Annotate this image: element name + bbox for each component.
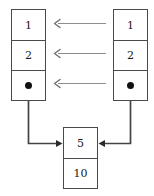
right-cell-1: 1: [114, 10, 147, 40]
left-pointer-dot-icon: [25, 82, 32, 89]
left-cell-3-pointer: [12, 70, 45, 100]
ref-arrow-row-2: [55, 50, 107, 58]
right-cell-2-value: 2: [127, 50, 134, 61]
shared-cell-2: 10: [64, 158, 97, 188]
right-cell-3-pointer: [114, 70, 147, 100]
node-right-list: 1 2: [113, 9, 148, 101]
left-cell-1: 1: [12, 10, 45, 40]
left-cell-2: 2: [12, 40, 45, 70]
ref-arrow-row-3: [55, 80, 107, 88]
diagram-canvas: 1 2 1 2 5 10: [0, 0, 154, 196]
shared-cell-1-value: 5: [77, 138, 84, 149]
right-cell-2: 2: [114, 40, 147, 70]
ref-arrow-row-1: [55, 20, 107, 28]
node-left-list: 1 2: [11, 9, 46, 101]
shared-cell-2-value: 10: [74, 168, 88, 179]
left-cell-1-value: 1: [25, 20, 32, 31]
right-cell-1-value: 1: [127, 20, 134, 31]
right-pointer-dot-icon: [127, 82, 134, 89]
left-cell-2-value: 2: [25, 50, 32, 61]
shared-cell-1: 5: [64, 128, 97, 158]
node-shared-tail: 5 10: [63, 127, 98, 189]
